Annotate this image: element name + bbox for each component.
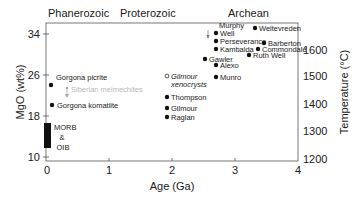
label-oib: OIB — [57, 143, 70, 152]
morb-oib-range-bar — [44, 123, 51, 148]
point-gilmour-xenocrysts — [165, 74, 169, 78]
point-thompson — [165, 95, 169, 99]
point-kambalda — [214, 47, 218, 51]
y-axis-right-label: Temperature (°C) — [338, 50, 350, 134]
point-perseverance — [214, 39, 218, 43]
point-raglan — [165, 115, 169, 119]
point-gorgona-komatiite — [50, 103, 54, 107]
label-weltevreden: Weltevreden — [259, 24, 301, 33]
x-axis — [109, 158, 235, 161]
x-tick-1: 1 — [106, 164, 112, 176]
label-amp: & — [59, 133, 64, 142]
siberian-arrow-icon — [65, 87, 69, 98]
point-murphy-well — [214, 31, 218, 35]
label-munro: Munro — [220, 73, 241, 82]
point-gilmour — [165, 106, 169, 110]
point-alexo — [214, 63, 218, 67]
y-tick-10: 10 — [28, 151, 40, 163]
point-ruth-well — [247, 53, 251, 57]
label-gorgona-picrite: Gorgona picrite — [56, 73, 107, 82]
label-gilmour: Gilmour — [171, 104, 198, 113]
temp-tick-1400: 1400 — [303, 98, 327, 110]
label-raglan: Raglan — [171, 113, 195, 122]
eon-label-proterozoic: Proterozoic — [120, 7, 176, 19]
label-alexo: Alexo — [220, 61, 239, 70]
y-tick-26: 26 — [28, 69, 40, 81]
x-tick-4: 4 — [295, 164, 301, 176]
temp-tick-1600: 1600 — [303, 44, 327, 56]
point-gorgona-picrite — [49, 83, 53, 87]
label-gorgona-komatiite: Gorgona komatiite — [57, 101, 118, 110]
y-tick-18: 18 — [28, 110, 40, 122]
x-tick-3: 3 — [232, 164, 238, 176]
murphy-well-arrow-icon — [207, 30, 210, 39]
label-ruth-well: Ruth Well — [253, 51, 286, 60]
eon-label-archean: Archean — [228, 7, 269, 19]
x-tick-2: 2 — [169, 164, 175, 176]
y-axis-label: MgO (wt%) — [14, 65, 26, 120]
x-axis-label: Age (Ga) — [150, 180, 195, 192]
point-gawler — [203, 57, 207, 61]
label-gilmour-xenocrysts-2: xenocrysts — [170, 80, 207, 89]
mgo-vs-age-chart: Phanerozoic Proterozoic Archean 34 26 18… — [0, 0, 358, 199]
eon-label-phanerozoic: Phanerozoic — [48, 7, 110, 19]
y-tick-34: 34 — [28, 28, 40, 40]
label-thompson: Thompson — [171, 93, 206, 102]
temp-tick-1500: 1500 — [303, 70, 327, 82]
label-morb: MORB — [54, 123, 77, 132]
label-kambalda: Kambalda — [220, 45, 255, 54]
point-weltevreden — [253, 26, 257, 30]
temp-tick-1200: 1200 — [303, 153, 327, 165]
point-munro — [214, 75, 218, 79]
label-siberian-meimechites: Siberian meimechites — [71, 85, 143, 94]
temp-tick-1300: 1300 — [303, 125, 327, 137]
x-tick-0: 0 — [44, 164, 50, 176]
